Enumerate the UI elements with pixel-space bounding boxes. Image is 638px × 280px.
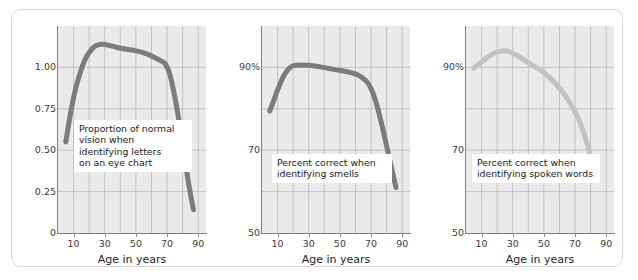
annotation-vision: Proportion of normal vision when identif… [74, 120, 192, 172]
x-tick-label: 90 [596, 238, 616, 249]
chart-panels: 00.250.500.751.00 1030507090 Age in year… [12, 10, 624, 268]
y-tick-labels-vision: 00.250.500.751.00 [12, 10, 56, 268]
y-tick-label: 70 [422, 145, 464, 155]
x-tick-mark [340, 233, 341, 237]
x-tick-mark [198, 233, 199, 237]
x-tick-label: 10 [64, 238, 84, 249]
x-tick-label: 70 [361, 238, 381, 249]
y-tick-label: 0.25 [14, 187, 56, 197]
x-tick-label: 10 [472, 238, 492, 249]
plot-area-smells [262, 26, 410, 233]
x-tick-mark [371, 233, 372, 237]
annotation-smells: Percent correct when identifying smells [272, 154, 392, 183]
x-tick-label: 70 [157, 238, 177, 249]
x-tick-label: 90 [392, 238, 412, 249]
x-tick-mark [544, 233, 545, 237]
y-tick-label: 90% [422, 62, 464, 72]
chart-panel-spoken-words: 507090% 1030507090 Age in years Percent … [420, 10, 624, 268]
y-tick-label: 50 [422, 228, 464, 238]
x-tick-label: 70 [565, 238, 585, 249]
x-tick-label: 30 [95, 238, 115, 249]
x-tick-mark [136, 233, 137, 237]
x-tick-label: 30 [299, 238, 319, 249]
x-tick-label: 50 [534, 238, 554, 249]
x-tick-label: 50 [330, 238, 350, 249]
plot-svg-spoken-words [466, 26, 614, 233]
x-axis-spine-vision [57, 233, 207, 234]
x-tick-mark [402, 233, 403, 237]
chart-panel-vision: 00.250.500.751.00 1030507090 Age in year… [12, 10, 216, 268]
x-tick-mark [105, 233, 106, 237]
figure-frame: 00.250.500.751.00 1030507090 Age in year… [11, 9, 623, 267]
y-tick-label: 0.75 [14, 104, 56, 114]
annotation-spoken-words: Percent correct when identifying spoken … [472, 154, 600, 183]
x-tick-label: 30 [503, 238, 523, 249]
x-tick-mark [606, 233, 607, 237]
plot-svg-smells [262, 26, 410, 233]
y-tick-labels-spoken-words: 507090% [420, 10, 464, 268]
x-tick-label: 50 [126, 238, 146, 249]
y-tick-label: 1.00 [14, 62, 56, 72]
x-tick-mark [309, 233, 310, 237]
x-tick-mark [513, 233, 514, 237]
x-axis-spine-smells [261, 233, 411, 234]
plot-area-spoken-words [466, 26, 614, 233]
y-axis-spine-smells [261, 26, 262, 234]
y-tick-label: 90% [218, 62, 260, 72]
x-axis-spine-spoken-words [465, 233, 615, 234]
y-tick-labels-smells: 507090% [216, 10, 260, 268]
y-tick-label: 70 [218, 145, 260, 155]
y-axis-spine-spoken-words [465, 26, 466, 234]
x-axis-label-vision: Age in years [58, 253, 206, 266]
x-axis-label-smells: Age in years [262, 253, 410, 266]
x-tick-mark [74, 233, 75, 237]
x-tick-label: 90 [188, 238, 208, 249]
y-tick-label: 50 [218, 228, 260, 238]
x-tick-mark [575, 233, 576, 237]
y-axis-spine-vision [57, 26, 58, 234]
chart-panel-smells: 507090% 1030507090 Age in years Percent … [216, 10, 420, 268]
x-tick-mark [278, 233, 279, 237]
y-tick-label: 0.50 [14, 145, 56, 155]
x-tick-mark [482, 233, 483, 237]
x-axis-label-spoken-words: Age in years [466, 253, 614, 266]
y-tick-label: 0 [14, 228, 56, 238]
x-tick-mark [167, 233, 168, 237]
x-tick-label: 10 [268, 238, 288, 249]
